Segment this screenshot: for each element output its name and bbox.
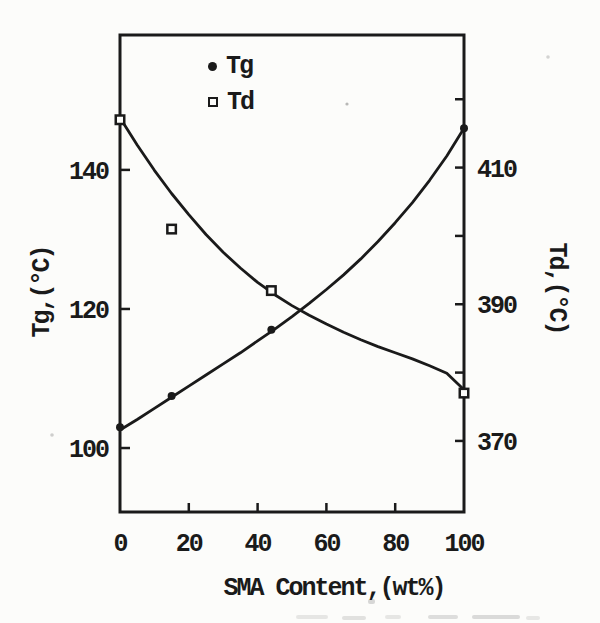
td-curve [120, 118, 464, 390]
legend-item-td: Td [208, 88, 253, 116]
y-axis-title-right: Td,(°C) [544, 242, 569, 333]
td-point [460, 389, 469, 398]
tg-curve [120, 128, 464, 430]
scan-artifact [385, 615, 401, 619]
td-point [116, 115, 125, 124]
y-right-tick-label-390: 390 [477, 292, 517, 321]
chart-canvas: 020406080100100120140370390410 [0, 0, 600, 623]
scan-artifact [342, 616, 366, 620]
x-tick-label-100: 100 [444, 530, 484, 559]
scan-artifact [526, 616, 540, 620]
figure-root: 020406080100100120140370390410 Tg Td Tg,… [0, 0, 600, 623]
scan-artifact [428, 615, 458, 619]
x-tick-label-80: 80 [382, 530, 409, 559]
open-square-icon [208, 97, 218, 107]
legend-item-tg: Tg [208, 52, 253, 80]
tg-point [168, 392, 176, 400]
legend-label-td: Td [227, 90, 253, 115]
legend: Tg Td [208, 52, 253, 116]
scan-artifact [472, 615, 520, 619]
x-tick-label-0: 0 [113, 530, 127, 559]
tg-point [267, 326, 275, 334]
scan-artifact [296, 615, 328, 619]
x-tick-label-40: 40 [245, 530, 272, 559]
x-axis-title: SMA Content,(wt%) [223, 576, 444, 601]
td-point [167, 225, 176, 234]
x-tick-label-60: 60 [313, 530, 340, 559]
y-left-tick-label-120: 120 [69, 297, 109, 326]
y-left-tick-label-100: 100 [69, 436, 109, 465]
td-point [267, 286, 276, 295]
scan-artifact [345, 102, 348, 105]
x-tick-label-20: 20 [176, 530, 203, 559]
y-left-tick-label-140: 140 [69, 158, 109, 187]
y-right-tick-label-410: 410 [477, 156, 517, 185]
legend-label-tg: Tg [226, 54, 252, 79]
tg-point [116, 423, 124, 431]
y-axis-title-left: Tg,(°C) [30, 246, 55, 337]
plot-frame [120, 35, 464, 512]
scan-artifact [50, 433, 54, 437]
filled-circle-icon [208, 62, 217, 71]
y-right-tick-label-370: 370 [477, 429, 517, 458]
scan-artifact [546, 55, 550, 59]
tg-point [460, 124, 468, 132]
